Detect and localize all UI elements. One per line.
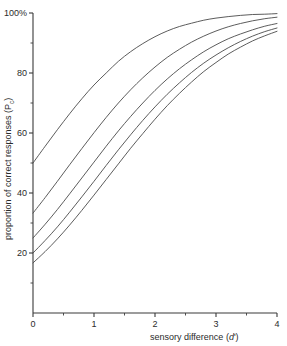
y-tick-label: 60 bbox=[17, 128, 27, 138]
curve-series-group bbox=[33, 14, 277, 263]
psychometric-function-chart: 20406080100% 01234 proportion of correct… bbox=[0, 0, 287, 346]
x-axis-tick-labels: 01234 bbox=[30, 319, 279, 329]
curve-5-afc bbox=[33, 28, 277, 253]
x-tick-label: 0 bbox=[30, 319, 35, 329]
y-tick-label: 20 bbox=[17, 248, 27, 258]
x-tick-label: 3 bbox=[213, 319, 218, 329]
y-axis-title: proportion of correct responses (Pc) bbox=[3, 98, 15, 240]
axes-group bbox=[33, 13, 277, 313]
y-tick-label: 40 bbox=[17, 188, 27, 198]
y-axis-ticks bbox=[29, 13, 33, 283]
curve-6-afc bbox=[33, 31, 277, 263]
curve-4-afc bbox=[33, 24, 277, 239]
y-tick-label: 80 bbox=[17, 68, 27, 78]
curve-2-afc bbox=[33, 14, 277, 163]
x-axis-title: sensory difference (d') bbox=[150, 332, 239, 342]
x-tick-label: 4 bbox=[274, 319, 279, 329]
x-tick-label: 2 bbox=[152, 319, 157, 329]
curve-3-afc bbox=[33, 17, 277, 213]
x-tick-label: 1 bbox=[91, 319, 96, 329]
x-axis-ticks bbox=[33, 313, 277, 317]
y-tick-label: 100% bbox=[4, 8, 27, 18]
